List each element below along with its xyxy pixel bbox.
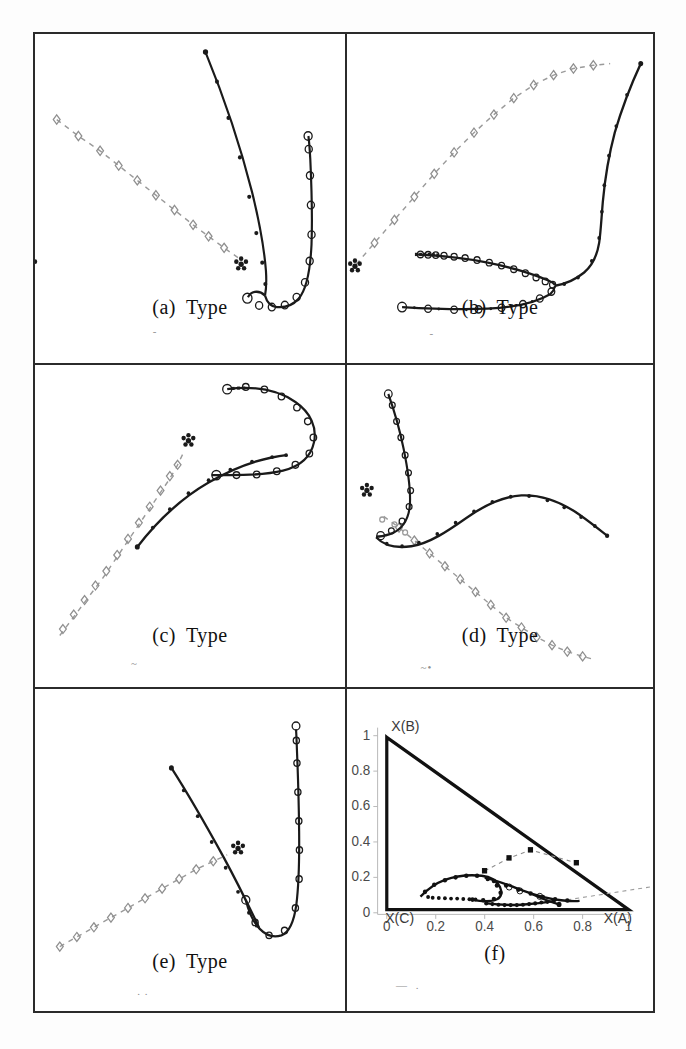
panel-d-artifact: ~• [420, 661, 432, 673]
panel-f-ytick-1: 1 [363, 726, 370, 742]
panel-a: (a)Type - [35, 34, 347, 365]
panel-f-y-axis: 1 0.8 0.6 0.4 0.2 0 [352, 726, 378, 920]
panel-d: (d)Type ~• [347, 365, 653, 689]
panel-c-feed-star [181, 433, 195, 447]
panel-f-corner-label-a: X(A) [604, 909, 632, 925]
panel-c-branch-filled [135, 453, 288, 549]
panel-f-corner-label-b: X(B) [391, 718, 419, 734]
panel-f-ytick-08: 0.8 [352, 762, 371, 778]
panel-b-branch-rising [555, 61, 643, 286]
panel-e-caption: (e)Type [35, 950, 345, 973]
panel-e-caption-text: Type [186, 950, 228, 972]
panel-a-caption: (a)Type [35, 296, 345, 319]
panel-b: (b)Type - [347, 34, 653, 365]
panel-a-label: (a) [152, 296, 176, 318]
panel-a-branch-open [243, 132, 315, 311]
panel-e-artifact: . . [137, 985, 148, 997]
panel-a-artifact: - [153, 325, 158, 337]
panel-b-branch-upper-open [415, 251, 556, 288]
panel-f-tieline-right [567, 887, 650, 900]
panel-f-ytick-06: 0.6 [352, 797, 371, 813]
panel-c-label: (c) [152, 624, 176, 646]
panel-a-tieline [53, 115, 238, 258]
panel-d-label: (d) [462, 624, 487, 646]
panel-f: 1 0.8 0.6 0.4 0.2 0 [347, 689, 653, 1011]
panel-c-caption-text: Type [186, 624, 228, 646]
panel-b-artifact: - [430, 327, 435, 339]
panel-d-feed-star [360, 483, 374, 497]
panel-a-caption-text: Type [186, 296, 228, 318]
panel-f-xtick-08: 0.8 [573, 918, 592, 934]
panel-f-ytick-04: 0.4 [352, 832, 371, 848]
panel-f-xtick-06: 0.6 [524, 918, 543, 934]
panel-a-branch-filled [203, 49, 267, 295]
panel-e: (e)Type . . [35, 689, 347, 1011]
panel-a-feed-star [35, 256, 248, 270]
panel-e-tieline [56, 855, 227, 951]
panel-c-caption: (c)Type [35, 624, 345, 647]
panel-f-ytick-0: 0 [363, 903, 371, 919]
panel-f-xtick-04: 0.4 [475, 918, 494, 934]
panel-f-xtick-02: 0.2 [426, 918, 445, 934]
panel-c: (c)Type ~ [35, 365, 347, 689]
panel-f-artifact: — . [396, 979, 422, 991]
figure-grid: (a)Type - [33, 32, 655, 1013]
panel-d-caption: (d)Type [347, 624, 653, 647]
panel-f-corner-label-c: X(C) [385, 909, 414, 925]
panel-e-branch-open [242, 722, 303, 939]
panel-f-label: (f) [484, 942, 505, 964]
panel-f-caption: (f) [347, 942, 653, 965]
panel-b-feed-star [348, 258, 362, 272]
panel-c-tieline [59, 452, 183, 636]
panel-f-ytick-02: 0.2 [352, 868, 371, 884]
panel-b-tieline [356, 61, 610, 265]
panel-f-tieline-upper [482, 847, 579, 873]
figure-page: (a)Type - [0, 0, 686, 1049]
panel-f-dense-cluster-left [426, 895, 477, 902]
panel-b-caption: (b)Type [347, 296, 653, 319]
panel-b-label: (b) [462, 296, 487, 318]
panel-c-branch-open-loop [212, 384, 317, 480]
panel-c-artifact: ~ [131, 657, 138, 669]
panel-e-label: (e) [152, 950, 176, 972]
panel-b-caption-text: Type [497, 296, 539, 318]
panel-e-feed-star [231, 841, 245, 855]
panel-d-caption-text: Type [497, 624, 539, 646]
panel-f-x-axis: 0 0.2 0.4 0.6 0.8 1 [383, 914, 632, 934]
